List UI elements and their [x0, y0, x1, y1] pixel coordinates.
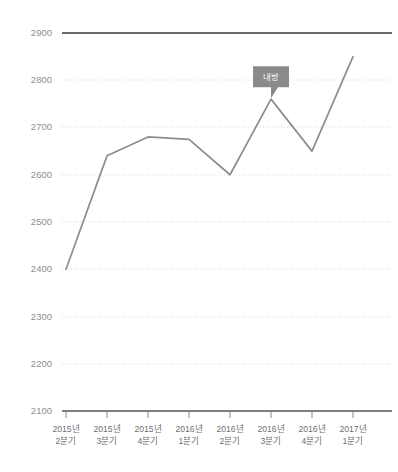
- data-line-series-0: [66, 57, 353, 270]
- xtick-label-2-year: 2015년: [134, 424, 161, 434]
- ytick-label-2600: 2600: [31, 169, 52, 180]
- xtick-label-4-quarter: 2분기: [220, 436, 241, 446]
- xtick-label-3-quarter: 1분기: [179, 436, 200, 446]
- ytick-label-2400: 2400: [31, 263, 52, 274]
- data-point-tooltip[interactable]: 내방: [253, 66, 289, 98]
- chart-canvas: 2900 2800 2700 2600 2500 2400 2300 2200 …: [0, 0, 398, 472]
- xtick-label-4-year: 2016년: [216, 424, 243, 434]
- ytick-label-2700: 2700: [31, 121, 52, 132]
- xtick-label-3-year: 2016년: [175, 424, 202, 434]
- xtick-label-6-quarter: 4분기: [302, 436, 323, 446]
- xtick-label-6-year: 2016년: [298, 424, 325, 434]
- ytick-label-2300: 2300: [31, 311, 52, 322]
- line-chart: 2900 2800 2700 2600 2500 2400 2300 2200 …: [0, 0, 398, 472]
- ytick-label-2100: 2100: [31, 405, 52, 416]
- xtick-label-0-quarter: 2분기: [56, 436, 77, 446]
- x-axis-labels: 2015년 2분기 2015년 3분기 2015년 4분기 2016년 1분기 …: [52, 424, 366, 446]
- ytick-label-2500: 2500: [31, 216, 52, 227]
- xtick-label-1-quarter: 3분기: [97, 436, 118, 446]
- xtick-label-2-quarter: 4분기: [138, 436, 159, 446]
- xtick-label-5-year: 2016년: [257, 424, 284, 434]
- tooltip-label: 내방: [263, 72, 279, 82]
- xtick-label-1-year: 2015년: [93, 424, 120, 434]
- xtick-label-7-quarter: 1분기: [343, 436, 364, 446]
- xtick-label-7-year: 2017년: [339, 424, 366, 434]
- ytick-label-2900: 2900: [31, 27, 52, 38]
- ytick-label-2800: 2800: [31, 74, 52, 85]
- xtick-label-0-year: 2015년: [52, 424, 79, 434]
- xtick-label-5-quarter: 3분기: [261, 436, 282, 446]
- y-axis-labels: 2900 2800 2700 2600 2500 2400 2300 2200 …: [31, 27, 52, 416]
- ytick-label-2200: 2200: [31, 358, 52, 369]
- x-axis-ticks: [66, 411, 353, 418]
